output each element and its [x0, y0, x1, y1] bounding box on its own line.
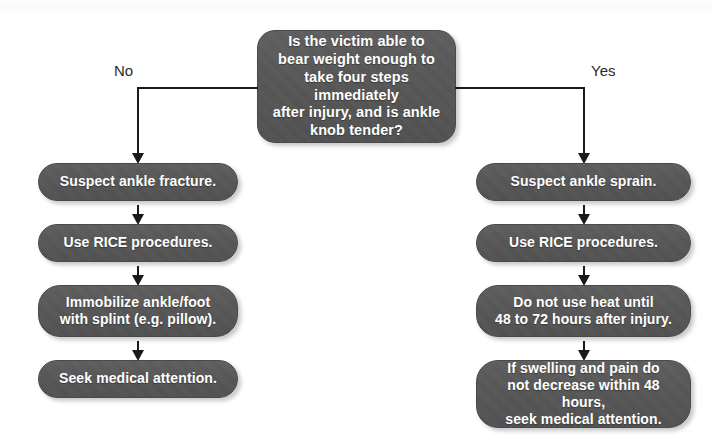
branch-label-yes: Yes — [591, 62, 615, 79]
node-do-not-use-heat[interactable]: Do not use heat until 48 to 72 hours aft… — [476, 285, 691, 337]
node-suspect-ankle-sprain[interactable]: Suspect ankle sprain. — [476, 163, 691, 201]
connector-decision-to-yes-horizontal — [455, 87, 585, 89]
node-label: Use RICE procedures. — [509, 234, 658, 251]
branch-label-no: No — [114, 62, 133, 79]
decision-node-ankle-assessment[interactable]: Is the victim able to bear weight enough… — [257, 30, 456, 143]
flowchart-canvas: Is the victim able to bear weight enough… — [0, 0, 712, 448]
node-use-rice-procedures-left[interactable]: Use RICE procedures. — [38, 224, 238, 262]
node-label: Do not use heat until 48 to 72 hours aft… — [495, 294, 672, 328]
node-suspect-ankle-fracture[interactable]: Suspect ankle fracture. — [38, 163, 238, 201]
node-label: Seek medical attention. — [59, 370, 217, 387]
node-immobilize-ankle-foot[interactable]: Immobilize ankle/foot with splint (e.g. … — [38, 285, 238, 337]
node-label: Suspect ankle sprain. — [510, 173, 656, 190]
connector-yes-vertical — [583, 87, 585, 157]
node-if-swelling-and-pain[interactable]: If swelling and pain do not decrease wit… — [476, 360, 691, 428]
node-use-rice-procedures-right[interactable]: Use RICE procedures. — [476, 224, 691, 262]
top-banner-band — [0, 0, 712, 14]
node-seek-medical-attention[interactable]: Seek medical attention. — [38, 360, 238, 398]
node-label: Immobilize ankle/foot with splint (e.g. … — [60, 294, 217, 328]
decision-node-label: Is the victim able to bear weight enough… — [268, 33, 445, 139]
node-label: If swelling and pain do not decrease wit… — [487, 360, 680, 428]
connector-decision-to-no-horizontal — [137, 87, 258, 89]
node-label: Suspect ankle fracture. — [60, 173, 216, 190]
connector-no-vertical — [137, 87, 139, 157]
node-label: Use RICE procedures. — [63, 234, 212, 251]
